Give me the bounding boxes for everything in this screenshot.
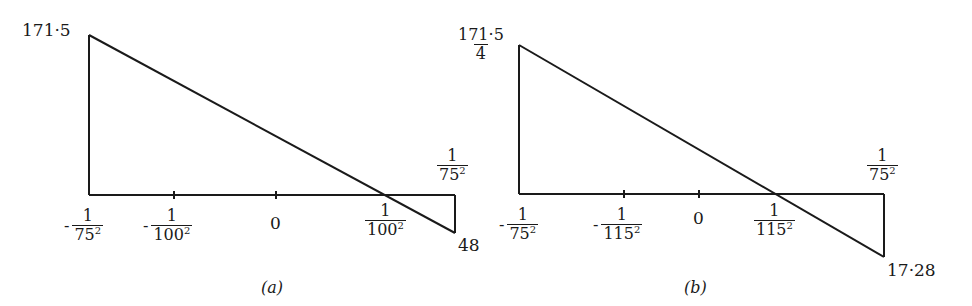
figure-b-tick-label-neg-1-115sq: - 1 1152 (593, 207, 642, 243)
figure-a-bottom-value: 48 (458, 237, 480, 254)
figure-b-caption: (b) (684, 278, 707, 297)
figure-b-tick-label-pos-1-115sq: 1 1152 (754, 203, 795, 239)
figure-b-right-top-label: 1 752 (867, 148, 898, 184)
figure-a-tick-label-neg-1-100sq: - 1 1002 (143, 208, 192, 244)
figure-b-tick-label-neg-1-75sq: - 1 752 (499, 207, 538, 243)
figure-a-tick-label-pos-1-100sq: 1 1002 (365, 203, 406, 239)
figure-a-top-value: 171·5 (22, 22, 71, 39)
figure-a-right-top-label: 1 752 (437, 148, 468, 184)
figure-b-tick-label-zero: 0 (693, 210, 704, 227)
figure-a-caption: (a) (261, 278, 283, 297)
figure-a-tick-label-zero: 0 (270, 215, 281, 232)
figure-b-bottom-value: 17·28 (887, 262, 936, 279)
figure-a-tick-label-neg-1-75sq: - 1 752 (64, 208, 103, 244)
figure-b-top-value: 171·5 4 (456, 27, 506, 63)
